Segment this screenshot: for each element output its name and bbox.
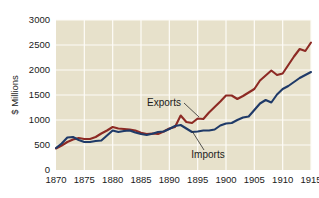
- x-tick-label: 1880: [102, 174, 123, 185]
- y-tick-label: 2000: [29, 64, 50, 75]
- series-label-exports: Exports: [147, 97, 181, 108]
- y-tick-label: 1500: [29, 89, 50, 100]
- x-tick-label: 1915: [300, 174, 319, 185]
- chart-canvas: 0500100015002000250030001870187518801885…: [0, 0, 319, 198]
- x-tick-label: 1875: [74, 174, 95, 185]
- x-tick-label: 1885: [130, 174, 151, 185]
- x-tick-label: 1910: [272, 174, 293, 185]
- y-tick-label: 3000: [29, 14, 50, 25]
- x-tick-label: 1900: [215, 174, 236, 185]
- x-tick-label: 1870: [45, 174, 66, 185]
- y-tick-label: 2500: [29, 39, 50, 50]
- y-tick-label: 500: [34, 139, 50, 150]
- y-axis-tick-labels: 050010001500200025003000: [29, 14, 50, 175]
- series-label-imports: Imports: [191, 149, 224, 160]
- x-tick-label: 1905: [244, 174, 265, 185]
- y-tick-label: 1000: [29, 114, 50, 125]
- trade-line-chart: 0500100015002000250030001870187518801885…: [0, 0, 319, 198]
- y-axis-title: $ Millions: [9, 75, 20, 115]
- x-axis-tick-labels: 1870187518801885189018951900190519101915: [45, 174, 319, 185]
- x-tick-label: 1890: [159, 174, 180, 185]
- x-tick-label: 1895: [187, 174, 208, 185]
